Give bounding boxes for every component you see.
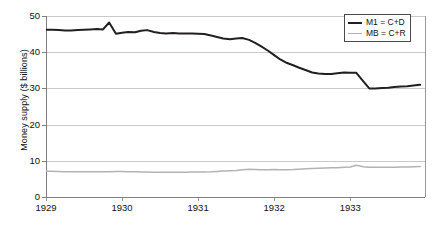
legend-line-swatch-mb [348,33,362,34]
y-axis-tick-label: 10 [10,156,40,166]
y-axis-tick-label: 50 [10,11,40,21]
legend-label-mb: MB = C+R [366,29,406,38]
money-supply-chart: Money supply ($ billions) 01020304050 19… [0,0,443,227]
x-axis-tick-label: 1932 [254,203,294,213]
legend-label-m1: M1 = C+D [366,18,405,27]
legend-item-m1: M1 = C+D [348,17,406,28]
chart-legend: M1 = C+D MB = C+R [344,14,411,42]
x-axis-tick-label: 1931 [178,203,218,213]
x-axis-tick-label: 1929 [26,203,66,213]
x-axis-tick-label: 1933 [330,203,370,213]
y-axis-tick-label: 20 [10,120,40,130]
y-axis-tick-label: 30 [10,83,40,93]
legend-line-swatch-m1 [348,22,362,24]
plot-right-border [425,16,426,197]
series-line-mb [46,165,420,172]
legend-item-mb: MB = C+R [348,28,406,39]
y-axis-tick-label: 0 [10,192,40,202]
series-layer [46,16,424,197]
y-axis-tick-label: 40 [10,47,40,57]
x-axis-tick-label: 1930 [102,203,142,213]
